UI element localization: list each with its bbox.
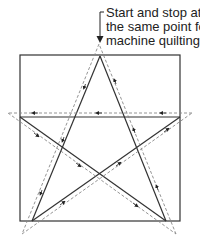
annotation-line-1: Start and stop at xyxy=(106,5,200,20)
annotation-leader xyxy=(100,12,104,38)
arrow-icon xyxy=(134,129,136,133)
annotation-line-2: the same point for xyxy=(106,19,200,34)
arrow-icon xyxy=(63,137,65,141)
annotation-line-3: machine quilting xyxy=(106,33,200,48)
arrow-icon xyxy=(133,203,137,206)
stitch-path-dashed xyxy=(8,44,192,234)
arrow-icon xyxy=(41,190,43,194)
star-quilting-diagram: Start and stop at the same point for mac… xyxy=(0,0,200,245)
direction-arrows xyxy=(33,80,168,206)
arrow-icon xyxy=(84,84,86,88)
star-solid-outline xyxy=(20,56,180,221)
leader-arrow-icon xyxy=(97,36,104,43)
